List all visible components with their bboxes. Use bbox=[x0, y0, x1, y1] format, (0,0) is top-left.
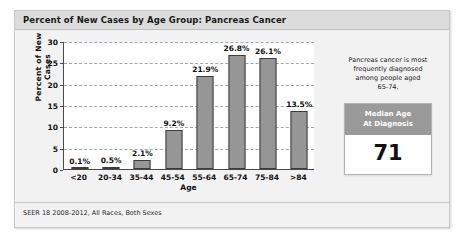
y-tick-label: 5 bbox=[42, 144, 58, 153]
bar-value-label: 0.5% bbox=[101, 156, 122, 165]
bar[interactable] bbox=[228, 55, 245, 169]
y-tick-mark bbox=[60, 63, 63, 64]
bar[interactable] bbox=[134, 160, 151, 169]
bar-slot: 26.8% bbox=[221, 42, 252, 169]
footer-divider bbox=[15, 202, 449, 203]
bar-value-label: 9.2% bbox=[163, 119, 184, 128]
x-tick-label: 65-74 bbox=[224, 173, 248, 182]
y-tick-label: 30 bbox=[42, 38, 58, 47]
bars-layer: 0.1%0.5%2.1%9.2%21.9%26.8%26.1%13.5% bbox=[64, 42, 314, 169]
bar-value-label: 0.1% bbox=[69, 157, 90, 166]
x-tick-label: 35-44 bbox=[129, 173, 153, 182]
chart-panel: Percent of New Cases 0.1%0.5%2.1%9.2%21.… bbox=[21, 36, 323, 199]
y-tick-mark bbox=[60, 42, 63, 43]
x-tick-label: <20 bbox=[70, 173, 87, 182]
bar-slot: 26.1% bbox=[252, 42, 283, 169]
bar[interactable] bbox=[291, 111, 308, 169]
x-tick-label: 20-34 bbox=[98, 173, 122, 182]
y-tick-label: 10 bbox=[42, 123, 58, 132]
plot-area: 0.1%0.5%2.1%9.2%21.9%26.8%26.1%13.5% bbox=[63, 42, 314, 170]
bar[interactable] bbox=[71, 167, 88, 169]
card-title-bar: Percent of New Cases by Age Group: Pancr… bbox=[15, 11, 449, 30]
bar-value-label: 26.8% bbox=[224, 44, 250, 53]
bar-slot: 21.9% bbox=[190, 42, 221, 169]
annotation-line-3: among people aged bbox=[331, 74, 445, 83]
bar-value-label: 13.5% bbox=[286, 100, 312, 109]
median-age-header-line-1: Median Age bbox=[345, 109, 431, 119]
annotation-line-1: Pancreas cancer is most bbox=[331, 56, 445, 65]
bar-slot: 2.1% bbox=[127, 42, 158, 169]
y-tick-mark bbox=[60, 85, 63, 86]
median-age-header-line-2: At Diagnosis bbox=[345, 119, 431, 129]
page-title: Percent of New Cases by Age Group: Pancr… bbox=[23, 15, 286, 25]
side-panel: Pancreas cancer is most frequently diagn… bbox=[331, 36, 445, 199]
chart-card: Percent of New Cases by Age Group: Pancr… bbox=[14, 10, 450, 228]
y-tick-label: 15 bbox=[42, 102, 58, 111]
bar[interactable] bbox=[197, 76, 214, 169]
median-age-box: Median Age At Diagnosis 71 bbox=[344, 103, 432, 175]
annotation-line-2: frequently diagnosed bbox=[331, 65, 445, 74]
y-tick-mark bbox=[60, 106, 63, 107]
x-tick-label: 55-64 bbox=[192, 173, 216, 182]
annotation-text: Pancreas cancer is most frequently diagn… bbox=[331, 56, 445, 92]
footer-source-text: SEER 18 2008-2012, All Races, Both Sexes bbox=[23, 209, 162, 217]
bar[interactable] bbox=[103, 167, 120, 169]
bar-value-label: 26.1% bbox=[255, 47, 281, 56]
bar[interactable] bbox=[259, 58, 276, 169]
y-tick-mark bbox=[60, 170, 63, 171]
annotation-line-4: 65-74. bbox=[331, 83, 445, 92]
bar-slot: 13.5% bbox=[284, 42, 315, 169]
x-axis-title: Age bbox=[63, 183, 314, 192]
median-age-value: 71 bbox=[345, 135, 431, 174]
y-tick-label: 25 bbox=[42, 59, 58, 68]
bar-slot: 0.1% bbox=[64, 42, 95, 169]
bar-slot: 9.2% bbox=[158, 42, 189, 169]
bar-value-label: 2.1% bbox=[132, 149, 153, 158]
x-tick-label: >84 bbox=[290, 173, 307, 182]
bar-value-label: 21.9% bbox=[192, 65, 218, 74]
x-tick-label: 45-54 bbox=[161, 173, 185, 182]
y-tick-label: 20 bbox=[42, 80, 58, 89]
y-tick-label: 0 bbox=[42, 166, 58, 175]
y-tick-mark bbox=[60, 127, 63, 128]
bar-slot: 0.5% bbox=[95, 42, 126, 169]
bar[interactable] bbox=[165, 130, 182, 169]
median-age-header: Median Age At Diagnosis bbox=[345, 104, 431, 135]
y-tick-mark bbox=[60, 149, 63, 150]
x-tick-label: 75-84 bbox=[255, 173, 279, 182]
